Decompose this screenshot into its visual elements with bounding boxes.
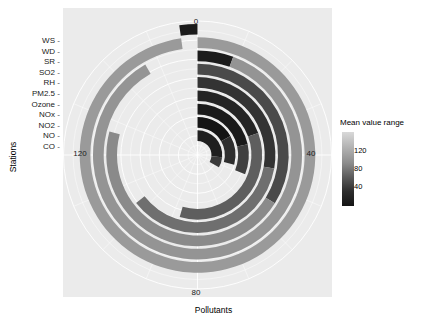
y-axis-tick-labels: WS - WD - SR - SO2 - RH - PM2.5 - Ozone … bbox=[16, 36, 60, 153]
y-tick-no2: NO2 - bbox=[39, 121, 60, 132]
legend-colorbar bbox=[342, 132, 354, 206]
y-tick-so2: SO2 - bbox=[39, 68, 60, 79]
spiral-bar-segment bbox=[210, 156, 222, 167]
legend-title: Mean value range bbox=[340, 118, 426, 127]
legend-tick-80: 80 bbox=[354, 164, 362, 173]
y-tick-ws: WS - bbox=[42, 36, 60, 47]
angular-tick-40: 40 bbox=[307, 149, 316, 158]
legend: Mean value range 120 80 40 bbox=[340, 118, 426, 210]
polar-spiral-plot bbox=[63, 8, 332, 297]
legend-tick-120: 120 bbox=[354, 146, 367, 155]
spiral-bar-segment bbox=[235, 144, 249, 174]
y-tick-co: CO - bbox=[43, 142, 60, 153]
angular-tick-0: 0 bbox=[194, 17, 198, 26]
y-tick-sr: SR - bbox=[44, 57, 60, 68]
y-tick-pm25: PM2.5 - bbox=[32, 89, 60, 100]
y-tick-rh: RH - bbox=[43, 78, 60, 89]
x-axis-title: Pollutants bbox=[0, 305, 427, 315]
legend-tick-40: 40 bbox=[354, 182, 362, 191]
y-tick-no: NO - bbox=[43, 131, 60, 142]
y-tick-wd: WD - bbox=[42, 47, 60, 58]
angular-tick-80: 80 bbox=[192, 288, 201, 297]
y-tick-nox: NOx - bbox=[39, 110, 60, 121]
plot-panel bbox=[63, 8, 332, 297]
y-tick-ozone: Ozone - bbox=[31, 100, 60, 111]
chart-figure: Stations WS - WD - SR - SO2 - RH - PM2.5… bbox=[0, 0, 427, 323]
angular-tick-120: 120 bbox=[73, 149, 86, 158]
legend-body: 120 80 40 bbox=[340, 132, 426, 210]
